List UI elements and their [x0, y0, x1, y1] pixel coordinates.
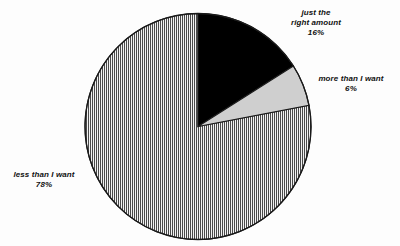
pie-chart-figure: just the right amount 16% more than I wa…: [0, 0, 400, 246]
slice-label-line-1: more than I want: [304, 74, 398, 84]
slice-label-value: 6%: [304, 84, 398, 94]
slice-label-more-than-i-want: more than I want 6%: [304, 74, 398, 94]
slice-label-line-1: just the: [262, 8, 370, 18]
slice-label-less-than-i-want: less than I want 78%: [2, 170, 86, 190]
slice-label-just-the-right-amount: just the right amount 16%: [262, 8, 370, 38]
slice-label-line-2: right amount: [262, 18, 370, 28]
slice-label-line-1: less than I want: [2, 170, 86, 180]
slice-label-value: 78%: [2, 180, 86, 190]
slice-label-value: 16%: [262, 28, 370, 38]
